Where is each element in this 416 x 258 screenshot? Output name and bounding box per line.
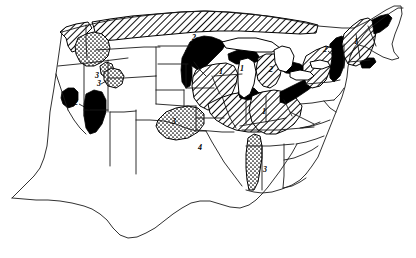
zone-label-4-southern-plains: 4 [198, 144, 202, 152]
zone-label-1-new-england: 1 [354, 38, 358, 46]
lake-ontario [310, 60, 330, 69]
zone-label-1-western-great-lakes: 1 [219, 68, 223, 76]
zone-label-3-wasatch: 3 [97, 80, 101, 88]
us-distribution-map-figure: 3 3 2 2 1 1 2 2 1 3 4 1 3 [0, 0, 416, 258]
zone-label-2-upper-midwest: 2 [192, 34, 196, 42]
zone-label-2-hudson-valley: 2 [323, 46, 327, 54]
zone-label-2-lower-michigan: 2 [269, 66, 273, 74]
zone-label-1-appalachians: 1 [262, 108, 266, 116]
zone-label-1-ohio-valley: 1 [240, 65, 244, 73]
zone-label-2-great-basin: 2 [74, 99, 78, 107]
zone-label-3-mississippi-valley: 3 [263, 166, 267, 174]
zone-label-3-ozarks: 3 [172, 118, 176, 126]
